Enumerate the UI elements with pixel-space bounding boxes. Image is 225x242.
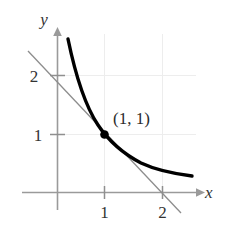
math-figure: x y 1 2 1 2 (1, 1) [0, 0, 225, 242]
figure-container: x y 1 2 1 2 (1, 1) [0, 0, 225, 242]
y-tick-label-1: 1 [34, 126, 43, 145]
point-marker [100, 130, 109, 139]
point-coordinate-label: (1, 1) [113, 109, 150, 128]
x-tick-label-2: 2 [158, 203, 167, 222]
x-tick-label-1: 1 [100, 203, 109, 222]
y-tick-label-2: 2 [30, 67, 39, 86]
y-axis-label: y [38, 10, 48, 29]
x-axis-label: x [204, 183, 213, 202]
